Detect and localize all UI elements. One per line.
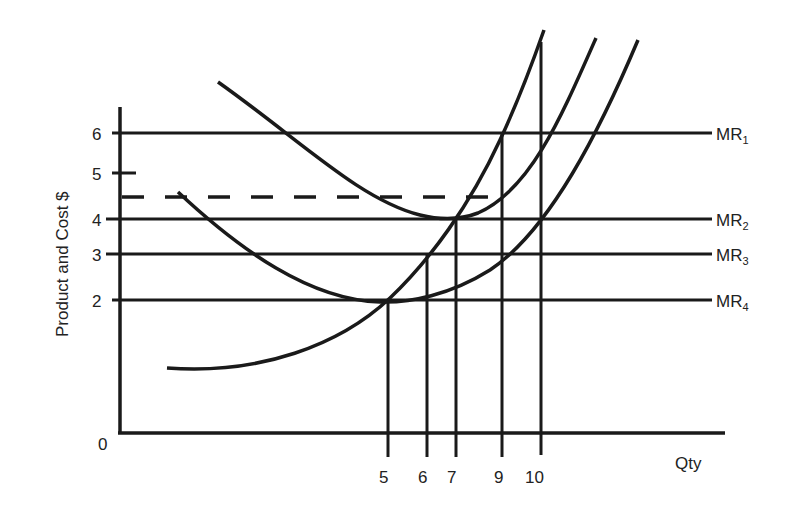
- mr3-label: MR3: [716, 246, 749, 267]
- y-tick-label-6: 6: [92, 125, 101, 144]
- mr4-label: MR4: [716, 292, 749, 313]
- x-tick-label-10: 10: [525, 468, 544, 487]
- x-tick-label-7: 7: [447, 468, 456, 487]
- y-axis-title: Product and Cost $: [53, 191, 72, 337]
- x-tick-label-9: 9: [494, 468, 503, 487]
- mc-curve: [167, 30, 544, 369]
- x-axis-title: Qty: [675, 454, 702, 473]
- y-tick-label-2: 2: [92, 292, 101, 311]
- mr1-label: MR1: [716, 125, 749, 146]
- cost-curves-chart: 6 5 4 3 2 0 5 6 7 9 10 Qty Product and C…: [0, 0, 792, 510]
- y-tick-label-3: 3: [92, 246, 101, 265]
- y-tick-label-4: 4: [92, 211, 101, 230]
- x-tick-label-5: 5: [379, 468, 388, 487]
- x-tick-label-6: 6: [418, 468, 427, 487]
- origin-label: 0: [98, 435, 107, 454]
- avc-curve: [178, 40, 638, 302]
- y-tick-label-5: 5: [92, 165, 101, 184]
- mr2-label: MR2: [716, 211, 749, 232]
- atc-curve: [218, 38, 596, 219]
